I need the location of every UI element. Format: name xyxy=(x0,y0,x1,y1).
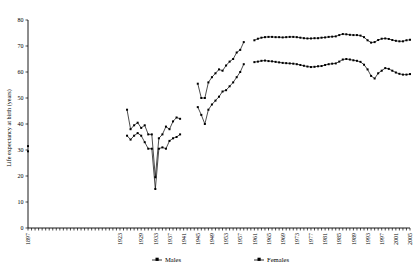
data-point xyxy=(338,34,340,36)
data-point xyxy=(282,62,284,64)
data-point xyxy=(303,37,305,39)
data-point xyxy=(331,36,333,38)
data-point xyxy=(126,109,128,111)
legend-marker-square xyxy=(156,258,159,261)
data-point xyxy=(239,71,241,73)
x-tick-label: 1977 xyxy=(308,233,314,245)
data-point xyxy=(137,132,139,134)
data-point xyxy=(374,41,376,43)
data-point xyxy=(218,96,220,98)
data-point xyxy=(342,33,344,35)
data-point xyxy=(409,39,411,41)
x-tick-label: 1973 xyxy=(294,233,300,245)
data-point xyxy=(285,62,287,64)
data-point xyxy=(331,63,333,65)
series-line xyxy=(254,34,410,43)
data-point xyxy=(363,36,365,38)
data-point xyxy=(317,65,319,67)
data-point xyxy=(214,100,216,102)
y-tick-label: 50 xyxy=(18,95,24,101)
x-tick-label: 2001 xyxy=(393,233,399,245)
data-point xyxy=(299,64,301,66)
data-point xyxy=(147,148,149,150)
x-tick-label: 1945 xyxy=(195,233,201,245)
data-point xyxy=(398,73,400,75)
data-point xyxy=(314,37,316,39)
data-point xyxy=(370,75,372,77)
data-point xyxy=(388,38,390,40)
data-point xyxy=(168,128,170,130)
data-point xyxy=(306,66,308,68)
data-point xyxy=(264,36,266,38)
data-point xyxy=(402,40,404,42)
series-line xyxy=(198,42,244,98)
data-point xyxy=(207,109,209,111)
data-point xyxy=(271,36,273,38)
data-point xyxy=(158,137,160,139)
life-expectancy-chart: 01020304050607080 1897192319291933193719… xyxy=(0,0,418,276)
data-point xyxy=(398,40,400,42)
data-point xyxy=(137,122,139,124)
data-point xyxy=(356,34,358,36)
data-point xyxy=(176,117,178,119)
y-tick-label: 10 xyxy=(18,199,24,205)
data-point xyxy=(405,74,407,76)
data-point xyxy=(268,60,270,62)
data-point xyxy=(278,36,280,38)
x-tick-label: 1897 xyxy=(25,233,31,245)
data-point xyxy=(225,65,227,67)
data-point xyxy=(345,33,347,35)
data-point xyxy=(384,67,386,69)
data-point xyxy=(268,36,270,38)
x-tick-label: 1981 xyxy=(322,233,328,245)
data-point xyxy=(133,124,135,126)
data-point xyxy=(229,85,231,87)
x-tick-labels: 1897192319291933193719411945194919531957… xyxy=(25,233,413,245)
data-point xyxy=(179,118,181,120)
y-tick-label: 0 xyxy=(21,225,24,231)
data-point xyxy=(225,89,227,91)
data-point xyxy=(317,37,319,39)
x-tick-label: 1949 xyxy=(209,233,215,245)
x-tick-label: 1929 xyxy=(138,233,144,245)
x-tick-label: 1957 xyxy=(237,233,243,245)
data-point xyxy=(359,35,361,37)
data-point xyxy=(289,36,291,38)
data-point xyxy=(292,36,294,38)
data-point xyxy=(151,148,153,150)
data-point xyxy=(296,36,298,38)
x-axis-group: 1897192319291933193719411945194919531957… xyxy=(25,228,413,245)
data-point xyxy=(144,141,146,143)
data-point xyxy=(154,188,156,190)
data-point xyxy=(299,37,301,39)
data-point xyxy=(161,146,163,148)
data-point xyxy=(214,72,216,74)
data-series-layer xyxy=(27,33,411,190)
data-point xyxy=(405,39,407,41)
data-point xyxy=(402,74,404,76)
data-point xyxy=(151,133,153,135)
data-point xyxy=(243,63,245,65)
data-point xyxy=(303,65,305,67)
x-tick-label: 1933 xyxy=(153,233,159,245)
data-point xyxy=(395,72,397,74)
data-point xyxy=(275,61,277,63)
data-point xyxy=(377,72,379,74)
data-point xyxy=(381,38,383,40)
data-point xyxy=(257,61,259,63)
data-point xyxy=(197,106,199,108)
data-point xyxy=(236,76,238,78)
data-point xyxy=(363,64,365,66)
data-point xyxy=(147,133,149,135)
x-tick-label: 1969 xyxy=(280,233,286,245)
data-point xyxy=(338,61,340,63)
chart-svg: 01020304050607080 1897192319291933193719… xyxy=(0,0,418,276)
data-point xyxy=(296,63,298,65)
y-axis-title: Life expectancy at birth (years) xyxy=(5,89,13,167)
data-point xyxy=(282,36,284,38)
legend-label-females: Females xyxy=(267,256,289,263)
data-point xyxy=(253,61,255,63)
series-line xyxy=(127,133,180,189)
x-tick-label: 1965 xyxy=(266,233,272,245)
data-point xyxy=(395,40,397,42)
